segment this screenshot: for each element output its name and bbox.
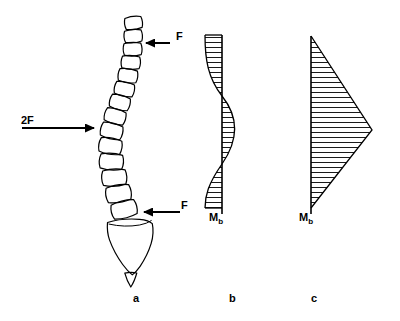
panel-caption-a: a — [133, 293, 139, 304]
moment-label-b-base: M — [209, 211, 218, 223]
force-label-top: F — [176, 31, 183, 42]
biomechanics-figure: F 2F F Mb Mb a b c — [0, 0, 400, 321]
moment-label-b-sub: b — [218, 217, 223, 226]
moment-b-fill — [205, 35, 235, 208]
panel-caption-b: b — [229, 293, 236, 304]
sacrum — [107, 219, 153, 275]
force-label-middle: 2F — [21, 115, 34, 126]
force-label-bottom: F — [181, 200, 188, 211]
vertebra-group — [97, 15, 143, 221]
moment-label-b: Mb — [209, 212, 223, 226]
panel-caption-c: c — [311, 293, 317, 304]
sacrum-inner-line — [109, 220, 152, 226]
panel-c-moment — [311, 36, 372, 214]
moment-label-c-sub: b — [308, 217, 313, 226]
vertebra — [124, 15, 143, 30]
figure-canvas — [0, 0, 400, 321]
vertebra — [99, 152, 124, 171]
panel-b-moment — [205, 35, 235, 214]
moment-label-c-base: M — [299, 211, 308, 223]
coccyx — [125, 272, 137, 287]
vertebra — [121, 55, 141, 70]
panel-a-spine — [97, 15, 153, 287]
moment-label-c: Mb — [299, 212, 313, 226]
moment-c-fill — [311, 36, 372, 208]
vertebra — [123, 42, 142, 56]
vertebra — [123, 29, 143, 44]
